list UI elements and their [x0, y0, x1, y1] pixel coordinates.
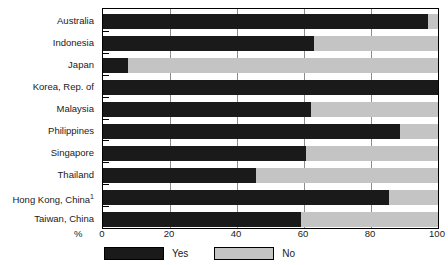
bar-segment-yes [103, 168, 256, 183]
bar-segment-no [314, 36, 438, 51]
category-label-text: Australia [57, 15, 94, 26]
chart-figure: AustraliaIndonesiaJapanKorea, Rep. ofMal… [0, 0, 448, 265]
legend-label-yes: Yes [172, 248, 188, 259]
category-label-hong-kong-china: Hong Kong, China1 [0, 191, 94, 205]
x-tick-label: 80 [365, 228, 376, 239]
x-tick-label: 100 [429, 228, 445, 239]
x-tick-label: 0 [99, 228, 104, 239]
category-label-singapore: Singapore [0, 147, 94, 158]
category-label-philippines: Philippines [0, 125, 94, 136]
bar-row [103, 80, 438, 95]
category-tick [103, 31, 109, 32]
bar-row [103, 102, 438, 117]
bar-segment-no [306, 146, 438, 161]
category-label-text: Singapore [51, 147, 94, 158]
chart-legend: Yes No [104, 245, 321, 261]
category-label-text: Hong Kong, China [12, 194, 90, 205]
bar-segment-yes [103, 102, 311, 117]
bar-row [103, 190, 438, 205]
category-tick [103, 162, 109, 163]
bar-segment-no [311, 102, 438, 117]
bar-segment-yes [103, 212, 301, 227]
category-tick [103, 119, 109, 120]
category-label-text: Korea, Rep. of [33, 81, 94, 92]
category-label-text: Taiwan, China [34, 213, 94, 224]
category-label-taiwan-china: Taiwan, China [0, 213, 94, 224]
bar-segment-no [301, 212, 438, 227]
bar-segment-yes [103, 146, 306, 161]
x-tick-label: 60 [298, 228, 309, 239]
category-label-text: Japan [68, 59, 94, 70]
x-axis-unit-label: % [74, 228, 82, 239]
bar-segment-yes [103, 14, 428, 29]
bar-segment-no [389, 190, 438, 205]
bar-row [103, 212, 438, 227]
bar-segment-no [256, 168, 438, 183]
plot-area [102, 8, 439, 229]
bar-segment-yes [103, 190, 389, 205]
category-tick [103, 206, 109, 207]
category-label-text: Malaysia [57, 103, 95, 114]
category-tick [103, 184, 109, 185]
legend-label-no: No [282, 248, 295, 259]
bar-segment-yes [103, 80, 438, 95]
bar-row [103, 124, 438, 139]
category-label-korea-rep-of: Korea, Rep. of [0, 81, 94, 92]
category-label-japan: Japan [0, 59, 94, 70]
category-label-text: Indonesia [53, 37, 94, 48]
category-tick [103, 75, 109, 76]
bar-segment-yes [103, 36, 314, 51]
category-tick [103, 53, 109, 54]
bar-segment-yes [103, 124, 400, 139]
bar-row [103, 168, 438, 183]
category-label-australia: Australia [0, 15, 94, 26]
x-axis-tick-labels: 020406080100 [102, 228, 437, 244]
bar-row [103, 146, 438, 161]
bar-series-container [103, 9, 438, 228]
footnote-marker: 1 [90, 193, 94, 200]
bar-segment-no [128, 58, 438, 73]
bar-row [103, 58, 438, 73]
bar-segment-no [428, 14, 438, 29]
category-label-text: Thailand [58, 169, 94, 180]
category-tick [103, 140, 109, 141]
x-tick-label: 20 [164, 228, 175, 239]
category-label-thailand: Thailand [0, 169, 94, 180]
legend-entry-no: No [214, 247, 321, 260]
category-label-indonesia: Indonesia [0, 37, 94, 48]
black-swatch-icon [104, 247, 164, 260]
legend-entry-yes: Yes [104, 247, 214, 260]
x-tick-label: 40 [231, 228, 242, 239]
bar-row [103, 14, 438, 29]
bar-row [103, 36, 438, 51]
category-tick [103, 97, 109, 98]
category-axis-labels: AustraliaIndonesiaJapanKorea, Rep. ofMal… [0, 8, 98, 227]
gray-swatch-icon [214, 247, 274, 260]
bar-segment-yes [103, 58, 128, 73]
category-label-malaysia: Malaysia [0, 103, 94, 114]
bar-segment-no [400, 124, 438, 139]
category-label-text: Philippines [48, 125, 94, 136]
